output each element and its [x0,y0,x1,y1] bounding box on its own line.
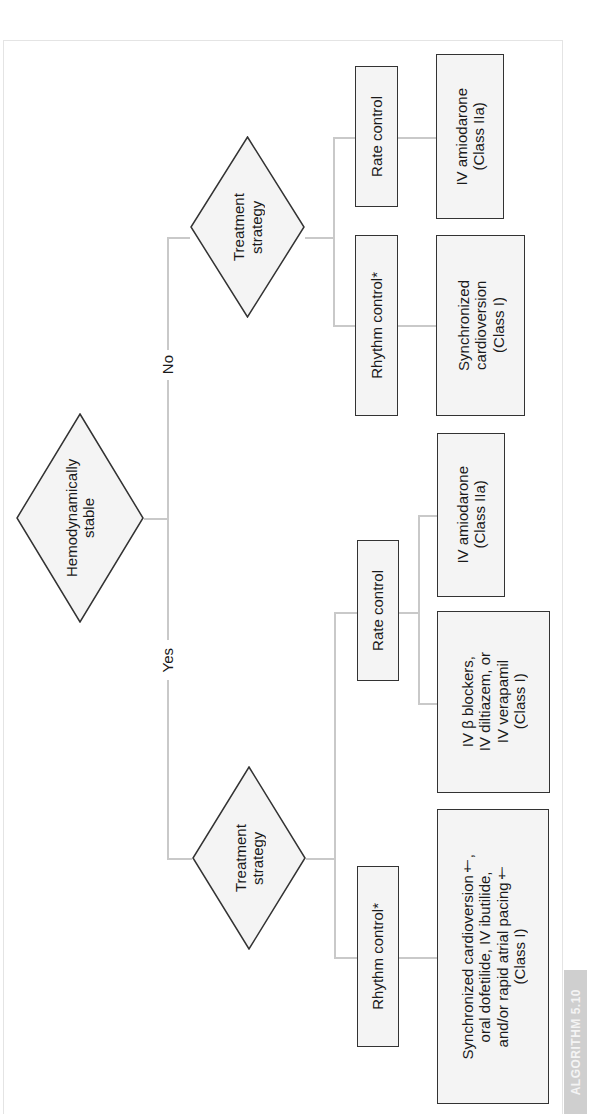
connector-main-spine [167,237,169,859]
connector-spine-to-yes-decision [167,858,192,860]
box-yes-cardioversion-dofetilide-ibutilide: Synchronized cardioversion†, oral dofeti… [437,809,549,1104]
decision-hemodynamically-stable: Hemodynamically stable [16,413,144,623]
connector-spine-to-no-decision [167,237,190,239]
box-no-synchronized-cardioversion: Synchronized cardioversion (Class I) [436,235,525,416]
box-no-rhythm-control: Rhythm control* [355,235,398,416]
connector-yes-decision-out [306,858,334,860]
branch-label-no: No [157,350,179,380]
box-no-iv-amiodarone: IV amiodarone (Class IIa) [436,54,504,219]
connector-root-to-spine [144,518,167,520]
connector-yes-rhythm-to-treatment [399,957,437,959]
connector-yes-rate-out [399,612,418,614]
connector-yes-rate-sub-spine [418,515,420,703]
box-yes-iv-amiodarone: IV amiodarone (Class IIa) [437,433,505,597]
connector-no-rhythm-to-treatment [398,325,437,327]
branch-label-yes: Yes [157,640,179,680]
connector-yes-to-rate [334,612,357,614]
connector-no-to-rate [333,137,357,139]
connector-no-decision-out [305,237,333,239]
connector-yes-sub-spine [334,612,336,957]
decision-treatment-strategy-yes: Treatment strategy [192,766,306,950]
box-yes-beta-blockers: IV β blockers, IV diltiazem, or IV verap… [437,611,550,793]
connector-yes-rate-to-amiodarone [418,515,437,517]
box-yes-rate-control: Rate control [357,540,399,681]
connector-yes-to-rhythm [334,957,357,959]
connector-yes-rate-to-betablockers [418,703,437,705]
connector-no-to-rhythm [333,325,357,327]
decision-treatment-strategy-no: Treatment strategy [190,136,305,318]
connector-no-rate-to-treatment [398,137,437,139]
algorithm-tag: ALGORITHM 5.10 [564,970,587,1114]
box-yes-rhythm-control: Rhythm control* [357,866,399,1047]
connector-no-sub-spine [333,137,335,325]
box-no-rate-control: Rate control [355,66,398,207]
